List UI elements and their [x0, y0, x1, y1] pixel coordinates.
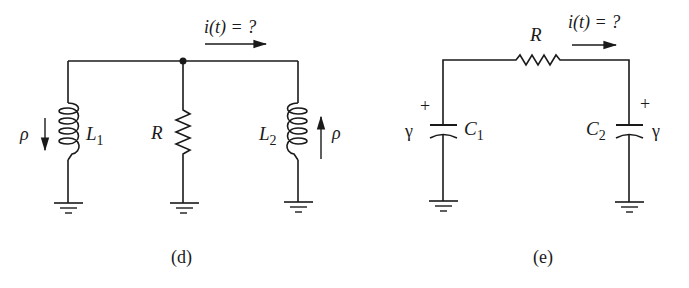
ground-icon	[284, 202, 313, 212]
c2-label: C2	[586, 118, 606, 143]
capacitor-c2	[615, 125, 644, 212]
rho-label-right: ρ	[331, 123, 341, 143]
inductor-l2	[284, 61, 313, 212]
circuit-e: R i(t) = ? + γ C1	[404, 12, 660, 268]
c1-label: C1	[464, 118, 484, 143]
ground-icon	[170, 203, 199, 213]
ground-icon	[429, 201, 458, 211]
resistor-r	[170, 61, 199, 213]
c2-voltage-label: γ	[651, 121, 660, 141]
caption-e: (e)	[533, 247, 553, 268]
r-label: R	[529, 24, 542, 45]
l1-label: L1	[85, 123, 104, 148]
current-label: i(t) = ?	[204, 17, 256, 38]
inductor-l1	[54, 61, 83, 213]
ground-icon	[54, 203, 83, 213]
c1-voltage-label: γ	[404, 121, 413, 141]
l2-label: L2	[258, 123, 277, 148]
circuit-d: i(t) = ? ρ L1 R	[19, 17, 341, 268]
caption-d: (d)	[171, 247, 192, 268]
r-label: R	[150, 122, 163, 143]
rho-label-left: ρ	[19, 124, 29, 144]
c1-polarity: +	[420, 96, 430, 116]
circuit-diagrams: i(t) = ? ρ L1 R	[0, 0, 689, 288]
ground-icon	[615, 202, 644, 212]
c2-polarity: +	[640, 94, 650, 114]
top-wire-resistor	[443, 55, 629, 125]
current-label: i(t) = ?	[568, 12, 620, 33]
capacitor-c1	[429, 125, 458, 211]
